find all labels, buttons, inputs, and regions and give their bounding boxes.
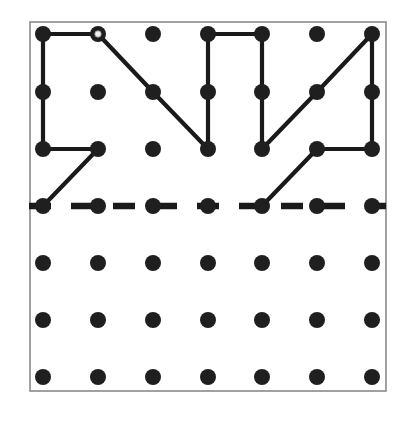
- peg-dot[interactable]: [309, 141, 325, 157]
- peg-dot[interactable]: [254, 141, 270, 157]
- peg-dot[interactable]: [145, 369, 161, 385]
- peg-dot[interactable]: [145, 198, 161, 214]
- peg-dot[interactable]: [145, 141, 161, 157]
- peg-dot[interactable]: [145, 26, 161, 42]
- peg-dot[interactable]: [145, 312, 161, 328]
- peg-dot[interactable]: [254, 198, 270, 214]
- peg-dot[interactable]: [309, 84, 325, 100]
- peg-dot[interactable]: [200, 369, 216, 385]
- peg-dot[interactable]: [200, 198, 216, 214]
- peg-dot[interactable]: [90, 198, 106, 214]
- peg-dot[interactable]: [35, 369, 51, 385]
- peg-dot[interactable]: [309, 255, 325, 271]
- peg-dot[interactable]: [364, 26, 380, 42]
- peg-dot[interactable]: [35, 312, 51, 328]
- peg-dot[interactable]: [90, 369, 106, 385]
- peg-dot[interactable]: [364, 255, 380, 271]
- peg-dot[interactable]: [200, 84, 216, 100]
- peg-dot[interactable]: [200, 26, 216, 42]
- peg-dot[interactable]: [364, 141, 380, 157]
- start-vertex-marker-icon: [95, 31, 101, 37]
- peg-dot[interactable]: [35, 255, 51, 271]
- peg-dot[interactable]: [364, 84, 380, 100]
- peg-dot[interactable]: [145, 84, 161, 100]
- peg-dot[interactable]: [90, 255, 106, 271]
- peg-dot[interactable]: [254, 255, 270, 271]
- peg-dot[interactable]: [90, 84, 106, 100]
- peg-dot[interactable]: [145, 255, 161, 271]
- peg-dot[interactable]: [254, 26, 270, 42]
- peg-dot[interactable]: [364, 198, 380, 214]
- peg-dot[interactable]: [90, 312, 106, 328]
- peg-dot[interactable]: [35, 141, 51, 157]
- peg-dot[interactable]: [309, 26, 325, 42]
- geoboard-canvas: [0, 0, 408, 425]
- peg-dot[interactable]: [35, 26, 51, 42]
- peg-dot[interactable]: [254, 369, 270, 385]
- peg-dot[interactable]: [90, 141, 106, 157]
- peg-dot[interactable]: [35, 84, 51, 100]
- peg-dot[interactable]: [200, 312, 216, 328]
- peg-dot[interactable]: [364, 312, 380, 328]
- peg-dot[interactable]: [35, 198, 51, 214]
- peg-dot[interactable]: [309, 198, 325, 214]
- peg-dot[interactable]: [309, 312, 325, 328]
- geoboard-figure: Geoboard dot grid with polyline figure a…: [0, 0, 408, 425]
- peg-dot[interactable]: [254, 84, 270, 100]
- peg-dot[interactable]: [254, 312, 270, 328]
- peg-dot[interactable]: [200, 141, 216, 157]
- peg-dot[interactable]: [200, 255, 216, 271]
- peg-dot[interactable]: [309, 369, 325, 385]
- peg-dot[interactable]: [364, 369, 380, 385]
